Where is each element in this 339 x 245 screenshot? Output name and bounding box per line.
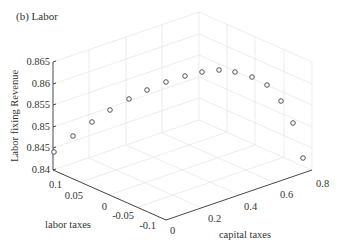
data-point: [183, 74, 188, 79]
data-point: [301, 156, 306, 161]
data-point: [217, 68, 222, 73]
data-point: [291, 121, 296, 126]
data-point: [108, 108, 113, 113]
svg-text:-0.1: -0.1: [139, 220, 156, 231]
svg-text:0.86: 0.86: [32, 78, 50, 89]
svg-text:0.845: 0.845: [26, 142, 50, 153]
axes: [53, 62, 312, 220]
svg-text:0.84: 0.84: [32, 164, 51, 175]
data-point: [164, 80, 169, 85]
svg-text:0.8: 0.8: [316, 178, 329, 189]
capital-tick-labels: 0 0.2 0.4 0.6 0.8: [170, 178, 329, 236]
data-point: [52, 150, 57, 155]
chart-3d-scatter: 0.865 0.86 0.855 0.85 0.845 0.84 0.1 0.0…: [0, 0, 339, 245]
data-point: [145, 88, 150, 93]
svg-text:0.05: 0.05: [65, 190, 83, 201]
data-point: [200, 70, 205, 75]
labor-axis-title: labor taxes: [45, 219, 91, 230]
svg-text:0.855: 0.855: [26, 99, 50, 110]
svg-text:0.1: 0.1: [49, 179, 62, 190]
svg-text:0: 0: [170, 225, 175, 236]
data-point: [279, 99, 284, 104]
z-axis-title: Labor fixing Revenue: [9, 70, 20, 162]
svg-text:-0.05: -0.05: [112, 210, 134, 221]
data-point: [127, 97, 132, 102]
data-point: [265, 83, 270, 88]
svg-text:0.4: 0.4: [244, 201, 258, 212]
data-point: [71, 134, 76, 139]
data-point: [233, 70, 238, 75]
svg-text:0.2: 0.2: [208, 213, 221, 224]
svg-text:0: 0: [102, 201, 107, 212]
panel-label: (b) Labor: [16, 10, 58, 23]
data-points: [52, 68, 306, 161]
svg-text:0.85: 0.85: [32, 121, 50, 132]
capital-axis-title: capital taxes: [219, 229, 271, 240]
grid-lines: [53, 12, 312, 220]
z-tick-labels: 0.865 0.86 0.855 0.85 0.845 0.84: [26, 56, 50, 175]
data-point: [250, 75, 255, 80]
svg-text:0.865: 0.865: [26, 56, 50, 67]
svg-text:0.6: 0.6: [280, 189, 293, 200]
data-point: [90, 120, 95, 125]
